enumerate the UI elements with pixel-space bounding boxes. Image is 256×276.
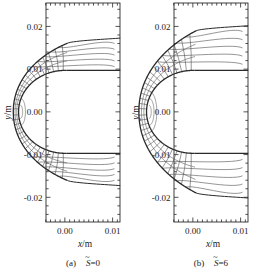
plot-frame (46, 3, 120, 222)
shock-tail (196, 193, 248, 198)
streamline (181, 39, 186, 70)
caption-prefix: (b) (194, 258, 205, 268)
streamline (14, 104, 19, 105)
nose-loop (21, 99, 26, 125)
streamline (15, 99, 21, 100)
streamline (17, 89, 24, 92)
trailing-streamline (157, 159, 242, 162)
shock-tail (196, 26, 248, 31)
y-axis-label: y/m (3, 105, 13, 121)
panel-b-svg: 0.020.010.00-0.01-0.020.000.01x/my/m(b)S… (128, 0, 256, 276)
panel-a-canvas: 0.020.010.00-0.01-0.020.000.01x/my/m(a)S… (0, 0, 128, 276)
nose-loop (149, 105, 151, 118)
trailing-streamline (177, 38, 243, 43)
streamline (15, 123, 21, 124)
y-tick-label: 0.02 (27, 22, 43, 32)
streamline (16, 94, 22, 96)
trailing-streamline (169, 174, 242, 177)
trailing-streamline (32, 157, 114, 159)
trailing-streamline (38, 59, 115, 62)
chart-panel-b: 0.020.010.00-0.01-0.020.000.01x/my/m(b)S… (128, 0, 256, 276)
trailing-streamline (32, 65, 114, 67)
x-tick-label: 0.00 (57, 226, 73, 236)
x-axis-label-unit: /m (210, 239, 221, 249)
panel-a-svg: 0.020.010.00-0.01-0.020.000.01x/my/m(a)S… (0, 0, 128, 276)
streamline (190, 153, 192, 189)
trailing-streamline (51, 172, 115, 176)
trailing-streamline (44, 53, 115, 56)
panel-caption: (b)S=6~ (194, 253, 229, 268)
streamline (140, 98, 148, 100)
y-tick-label: 0.02 (155, 22, 171, 32)
streamline (140, 123, 148, 125)
x-tick-label: 0.01 (233, 226, 249, 236)
streamline (181, 153, 186, 184)
x-tick-label: 0.01 (105, 226, 121, 236)
caption-value: =0 (90, 258, 100, 268)
streamline (143, 131, 152, 136)
plot-frame (174, 3, 248, 222)
y-tick-label: -0.02 (152, 193, 171, 203)
streamline (139, 103, 147, 104)
trailing-streamline (169, 46, 242, 49)
y-tick-label: 0.00 (27, 107, 43, 117)
panel-b-canvas: 0.020.010.00-0.01-0.020.000.01x/my/m(b)S… (128, 0, 256, 276)
x-axis-label: x/m (205, 239, 221, 249)
trailing-streamline (44, 167, 115, 170)
streamline (190, 34, 192, 70)
y-tick-label: -0.02 (24, 193, 43, 203)
body-surface (19, 70, 67, 153)
streamline (16, 127, 22, 129)
caption-overbar: ~ (85, 253, 90, 262)
caption-prefix: (a) (66, 258, 76, 268)
streamline (55, 49, 58, 71)
x-axis-label: x/m (77, 239, 93, 249)
streamline (62, 153, 63, 178)
streamline (143, 88, 152, 92)
chart-panel-a: 0.020.010.00-0.01-0.020.000.01x/my/m(a)S… (0, 0, 128, 276)
trailing-streamline (51, 48, 115, 52)
x-tick-label: 0.00 (185, 226, 201, 236)
y-axis-label-unit: /m (3, 105, 13, 116)
nose-loop (149, 99, 154, 125)
trailing-streamline (38, 162, 115, 165)
streamline (14, 119, 19, 120)
figure-root: 0.020.010.00-0.01-0.020.000.01x/my/m(a)S… (0, 0, 256, 276)
caption-overbar: ~ (213, 253, 218, 262)
streamline (62, 46, 63, 71)
streamline (141, 93, 150, 96)
streamline (17, 131, 24, 134)
caption-value: =6 (218, 258, 228, 268)
panel-caption: (a)S=0~ (66, 253, 101, 268)
trailing-streamline (177, 181, 243, 186)
streamline (141, 127, 150, 130)
x-axis-label-unit: /m (82, 239, 93, 249)
nose-loop (20, 105, 22, 118)
y-tick-label: 0.00 (155, 107, 171, 117)
streamline (55, 153, 58, 175)
